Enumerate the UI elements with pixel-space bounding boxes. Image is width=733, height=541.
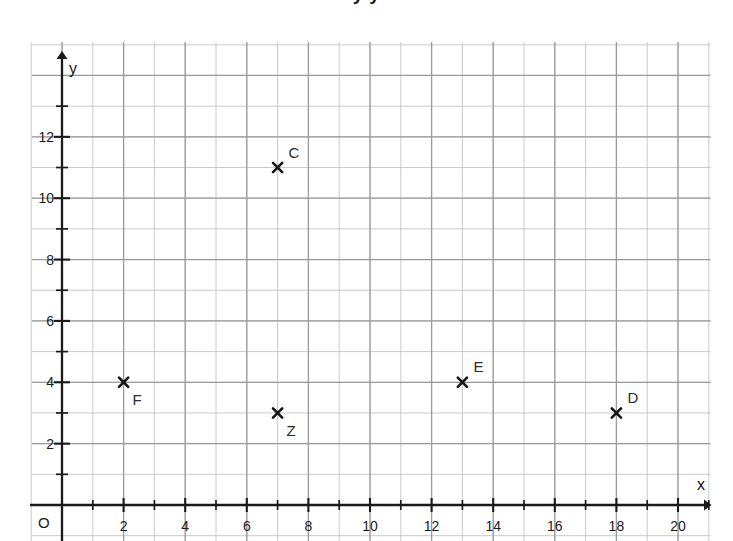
x-tick-label: 12 [424, 519, 440, 533]
origin-label: O [38, 515, 50, 530]
minor-gridlines [31, 42, 710, 541]
x-tick-label: 6 [243, 519, 251, 533]
x-tick-label: 16 [547, 519, 563, 533]
y-tick-label: 4 [20, 375, 54, 389]
point-label-f: F [133, 392, 142, 407]
y-axis-arrowhead [57, 51, 68, 59]
x-tick-label: 14 [485, 519, 501, 533]
point-label-c: C [289, 145, 300, 160]
point-label-d: D [627, 390, 638, 405]
y-tick-label: 8 [20, 253, 54, 267]
x-axis-label: x [697, 477, 705, 493]
x-tick-label: 18 [609, 519, 625, 533]
x-tick-label: 2 [120, 519, 128, 533]
x-axis-arrowhead [704, 500, 712, 511]
point-label-e: E [473, 359, 483, 374]
y-tick-label: 6 [20, 314, 54, 328]
y-axis-label: y [69, 61, 77, 77]
y-tick-label: 2 [20, 437, 54, 451]
y-tick-label: 10 [20, 191, 54, 205]
x-axis-ticks [93, 498, 709, 512]
coordinate-grid-plot [0, 0, 733, 541]
x-tick-label: 8 [304, 519, 312, 533]
x-tick-label: 10 [362, 519, 378, 533]
x-tick-label: 20 [670, 519, 686, 533]
x-tick-label: 4 [181, 519, 189, 533]
y-tick-label: 12 [20, 130, 54, 144]
point-label-z: Z [287, 423, 296, 438]
major-gridlines [32, 42, 711, 541]
graph-page: y y 246810121416182024681012yxOCFZED [0, 0, 733, 541]
